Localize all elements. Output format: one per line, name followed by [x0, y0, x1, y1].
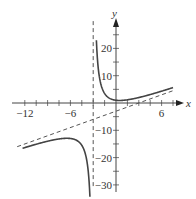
x-axis-arrow-icon — [176, 100, 184, 106]
y-tick-label: 20 — [101, 42, 113, 54]
y-axis-arrow-icon — [113, 18, 119, 27]
x-tick-labels: −12−66 — [16, 107, 165, 119]
y-tick-label: −20 — [95, 152, 113, 164]
x-tick-label: −6 — [65, 107, 77, 119]
x-axis-label: x — [185, 97, 191, 109]
y-axis-label: y — [111, 7, 117, 19]
slant-asymptote — [17, 91, 173, 147]
function-graph: x y −12−66 2010−10−20−30 — [0, 0, 196, 199]
x-tick-label: −12 — [16, 107, 33, 119]
y-tick-label: −10 — [95, 124, 113, 136]
y-tick-label: 10 — [101, 70, 113, 82]
y-tick-label: −30 — [95, 179, 113, 191]
x-tick-label: 6 — [159, 107, 165, 119]
curve-left-branch — [23, 138, 90, 196]
plot-series — [17, 21, 173, 197]
